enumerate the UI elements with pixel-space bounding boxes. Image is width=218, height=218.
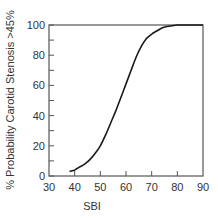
x-axis-label: SBI: [83, 200, 101, 212]
x-tick-label: 60: [120, 181, 132, 193]
y-tick-label: 60: [33, 79, 45, 91]
x-tick-label: 90: [197, 181, 209, 193]
y-tick-label: 20: [33, 140, 45, 152]
y-axis-label: % Probability Carotid Stenosis >45%: [4, 10, 16, 190]
y-tick-label: 80: [33, 49, 45, 61]
x-tick-label: 40: [69, 181, 81, 193]
x-tick-label: 50: [94, 181, 106, 193]
probability-chart: 020406080100 30405060708090 SBI % Probab…: [0, 0, 218, 218]
y-tick-label: 100: [27, 19, 45, 31]
x-tick-label: 30: [43, 181, 55, 193]
x-tick-label: 70: [146, 181, 158, 193]
x-tick-label: 80: [171, 181, 183, 193]
y-tick-label: 40: [33, 110, 45, 122]
